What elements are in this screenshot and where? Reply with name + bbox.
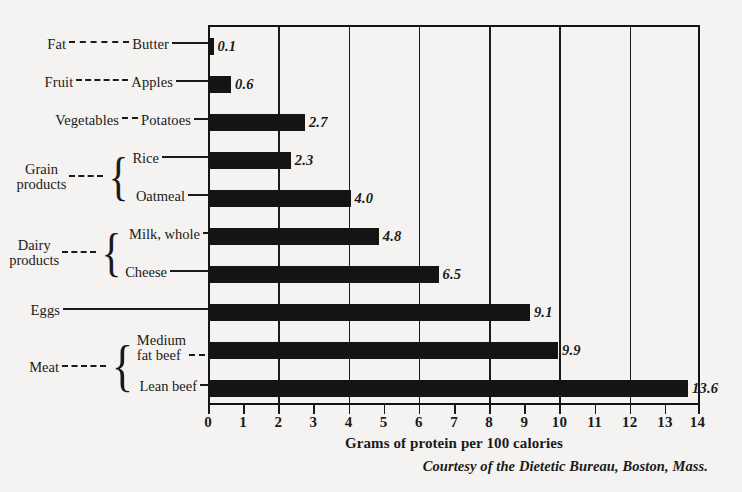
- tick-13: [665, 405, 667, 414]
- ticklabel-9: 9: [520, 414, 528, 431]
- ticklabel-0: 0: [204, 414, 212, 431]
- bar-value-butter: 0.1: [214, 38, 237, 55]
- row-label-milk: Milk, whole: [125, 215, 208, 253]
- group-items-grain: Rice Oatmeal: [132, 139, 208, 215]
- tick-14: [698, 405, 700, 414]
- tick-1: [243, 405, 245, 414]
- chart-credit: Courtesy of the Dietetic Bureau, Boston,…: [423, 458, 708, 475]
- item-label-lean-beef: Lean beef: [139, 378, 197, 395]
- group-label-vegetables: Vegetables: [55, 112, 119, 129]
- item-label-medium-fat-beef: Medium fat beef: [137, 333, 186, 363]
- group-items-dairy: Milk, whole Cheese: [125, 215, 208, 291]
- ticklabel-12: 12: [622, 414, 637, 431]
- item-label-apples: Apples: [131, 74, 173, 91]
- category-label-column: Fat Butter Fruit Apples Vegetables Potat…: [0, 25, 208, 405]
- group-label-eggs: Eggs: [31, 302, 60, 319]
- ticklabel-2: 2: [274, 414, 282, 431]
- group-meat: Meat { Medium fat beef Lean beef: [0, 329, 208, 405]
- bar-value-potatoes: 2.7: [305, 114, 328, 131]
- group-items-meat: Medium fat beef Lean beef: [137, 329, 208, 405]
- bar-value-medium-fat-beef: 9.9: [558, 342, 581, 359]
- ticklabel-4: 4: [345, 414, 353, 431]
- leader-solid: [162, 156, 208, 158]
- tick-8: [489, 405, 491, 414]
- row-label-oatmeal: Oatmeal: [132, 177, 208, 215]
- ticklabel-14: 14: [690, 414, 705, 431]
- ticklabel-5: 5: [380, 414, 388, 431]
- row-label-rice: Rice: [132, 139, 208, 177]
- row-label-potatoes: Vegetables Potatoes: [0, 101, 208, 139]
- leader-solid: [63, 308, 208, 310]
- group-dairy-products: Dairy products { Milk, whole Cheese: [0, 215, 208, 291]
- tick-3: [313, 405, 315, 414]
- group-label-dairy: Dairy products: [9, 238, 59, 268]
- brace-icon: {: [102, 232, 122, 275]
- item-label-milk: Milk, whole: [129, 226, 200, 243]
- row-label-lean-beef: Lean beef: [137, 367, 208, 405]
- group-label-grain: Grain products: [17, 162, 67, 192]
- group-label-meat: Meat: [29, 360, 59, 375]
- bar-potatoes: [210, 114, 305, 131]
- leader-solid: [200, 384, 208, 386]
- leader-dashed: [76, 79, 128, 81]
- bar-apples: [210, 76, 231, 93]
- leader-dashed: [62, 251, 96, 253]
- leader-dashed: [69, 175, 103, 177]
- bar-rice: [210, 152, 291, 169]
- row-label-eggs: Eggs: [0, 291, 208, 329]
- bar-cheese: [210, 266, 439, 283]
- bar-medium-fat-beef: [210, 342, 558, 359]
- ticklabel-1: 1: [239, 414, 247, 431]
- x-axis-tick-labels: 0 1 2 3 4 5 6 7 8 9 10 11 12 13 14: [208, 414, 700, 436]
- row-label-apples: Fruit Apples: [0, 63, 208, 101]
- ticklabel-11: 11: [587, 414, 602, 431]
- leader-dashed: [189, 354, 205, 356]
- leader-solid: [172, 42, 208, 44]
- tick-12: [630, 405, 632, 414]
- leader-dashed: [69, 41, 129, 43]
- bar-value-lean-beef: 13.6: [688, 380, 718, 397]
- tick-4: [349, 405, 351, 414]
- bar-value-oatmeal: 4.0: [351, 190, 374, 207]
- bar-value-milk: 4.8: [379, 228, 402, 245]
- x-axis-title: Grams of protein per 100 calories: [208, 435, 700, 452]
- protein-bar-chart: Fat Butter Fruit Apples Vegetables Potat…: [0, 0, 742, 492]
- item-label-oatmeal: Oatmeal: [136, 188, 185, 205]
- tick-2: [278, 405, 280, 414]
- tick-11: [595, 405, 597, 414]
- ticklabel-10: 10: [552, 414, 567, 431]
- leader-dashed: [122, 117, 138, 119]
- bar-value-eggs: 9.1: [530, 304, 553, 321]
- ticklabel-8: 8: [485, 414, 493, 431]
- row-label-cheese: Cheese: [125, 253, 208, 291]
- bar-value-rice: 2.3: [291, 152, 314, 169]
- ticklabel-3: 3: [310, 414, 318, 431]
- brace-icon: {: [109, 156, 129, 199]
- bar-oatmeal: [210, 190, 351, 207]
- ticklabel-7: 7: [450, 414, 458, 431]
- row-label-medium-fat-beef: Medium fat beef: [137, 329, 208, 367]
- group-label-fruit: Fruit: [45, 74, 74, 91]
- gridline-12: [630, 27, 632, 403]
- item-label-cheese: Cheese: [125, 264, 167, 281]
- leader-solid: [194, 118, 208, 120]
- bar-lean-beef: [210, 380, 688, 397]
- plot-area: 0.1 0.6 2.7 2.3 4.0 4.8 6.5 9.1 9.9 13.6: [208, 25, 700, 405]
- item-label-potatoes: Potatoes: [141, 112, 191, 129]
- tick-6: [419, 405, 421, 414]
- bar-eggs: [210, 304, 530, 321]
- group-grain-products: Grain products { Rice Oatmeal: [0, 139, 208, 215]
- tick-7: [454, 405, 456, 414]
- brace-icon: {: [112, 344, 134, 390]
- leader-dashed: [62, 365, 106, 367]
- ticklabel-13: 13: [657, 414, 672, 431]
- bar-value-apples: 0.6: [231, 76, 254, 93]
- ticklabel-6: 6: [415, 414, 423, 431]
- tick-9: [524, 405, 526, 414]
- item-label-rice: Rice: [132, 150, 159, 167]
- bar-milk: [210, 228, 379, 245]
- group-label-fat: Fat: [47, 36, 66, 53]
- tick-5: [384, 405, 386, 414]
- tick-10: [559, 405, 561, 414]
- leader-solid: [170, 270, 208, 272]
